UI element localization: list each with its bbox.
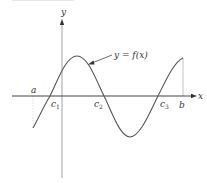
- point-c3-label: c3: [160, 99, 169, 110]
- point-c1-label: c1: [51, 99, 60, 110]
- point-b-label: b: [179, 100, 185, 110]
- function-graph: y x y = f(x) a b c1 c2 c3: [0, 0, 207, 183]
- y-axis-arrow-icon: [60, 19, 64, 25]
- point-c2-label: c2: [94, 99, 103, 110]
- x-axis-arrow-icon: [191, 94, 197, 98]
- point-a-label: a: [31, 85, 36, 95]
- curve-label: y = f(x): [113, 50, 148, 60]
- x-axis-label: x: [198, 91, 203, 101]
- y-axis-label: y: [60, 7, 67, 17]
- label-pointer-arrow-icon: [88, 61, 95, 65]
- label-pointer: [92, 55, 112, 63]
